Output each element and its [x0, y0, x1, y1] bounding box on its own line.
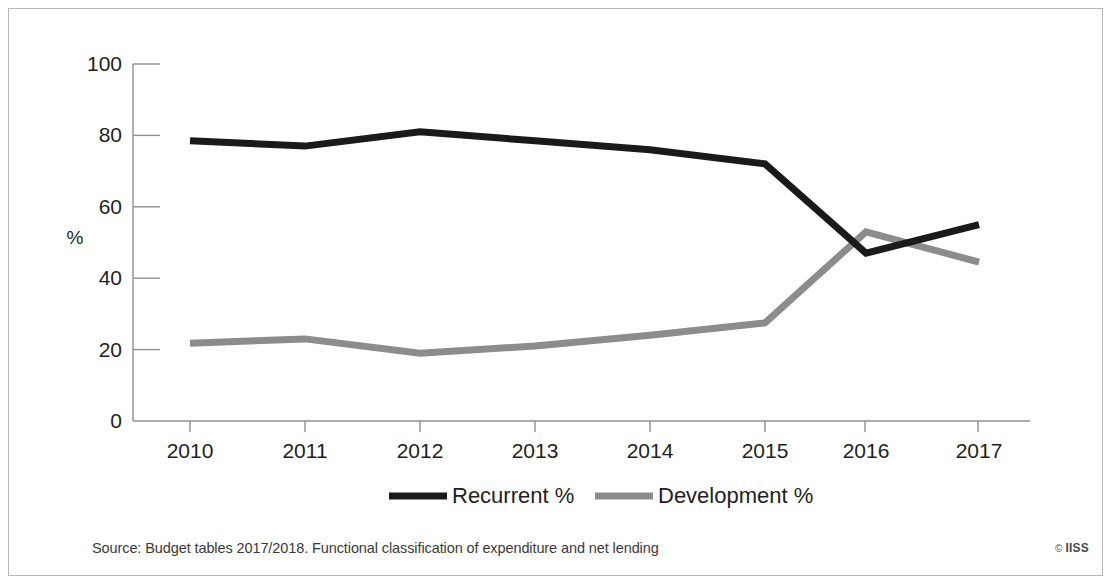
copyright-label: IISS: [1066, 541, 1089, 555]
y-tick-label-60: 60: [99, 195, 122, 218]
x-tick-label-2016: 2016: [843, 439, 890, 462]
y-axis-tick-labels: 100 80 60 40 20 0: [87, 52, 122, 432]
copyright-notice: © IISS: [1055, 541, 1089, 555]
source-note: Source: Budget tables 2017/2018. Functio…: [92, 540, 659, 556]
x-axis-ticks: [190, 421, 978, 432]
legend-label-recurrent: Recurrent %: [452, 483, 574, 508]
copyright-icon: ©: [1055, 543, 1063, 554]
x-tick-label-2014: 2014: [627, 439, 674, 462]
y-tick-label-100: 100: [87, 52, 122, 75]
y-tick-label-20: 20: [99, 338, 122, 361]
legend-label-development: Development %: [658, 483, 813, 508]
y-tick-label-40: 40: [99, 266, 122, 289]
chart-legend: Recurrent % Development %: [389, 483, 813, 508]
x-tick-label-2013: 2013: [512, 439, 559, 462]
x-tick-label-2011: 2011: [282, 439, 327, 462]
y-axis-title: %: [67, 227, 84, 248]
y-tick-label-0: 0: [110, 409, 122, 432]
x-tick-label-2017: 2017: [956, 439, 1003, 462]
x-tick-label-2015: 2015: [742, 439, 789, 462]
y-tick-label-80: 80: [99, 123, 122, 146]
x-axis-tick-labels: 2010 2011 2012 2013 2014 2015 2016 2017: [167, 439, 1003, 462]
x-tick-label-2012: 2012: [397, 439, 444, 462]
plot-area: 100 80 60 40 20 0 % 20: [0, 0, 1111, 584]
line-chart-svg: 100 80 60 40 20 0 % 20: [0, 0, 1111, 584]
y-axis-ticks: [133, 64, 160, 350]
chart-figure: 100 80 60 40 20 0 % 20: [0, 0, 1111, 584]
x-tick-label-2010: 2010: [167, 439, 214, 462]
